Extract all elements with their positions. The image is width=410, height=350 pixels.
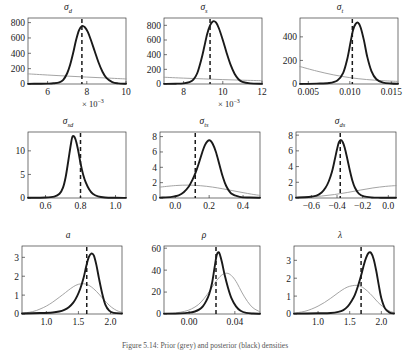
panel-sigma-d-xticklabel: 8 xyxy=(84,87,89,97)
panel-sigma-sd-xticklabel: 0.6 xyxy=(40,201,52,211)
panel-sigma-ds-yticklabel: 4 xyxy=(288,162,293,172)
panel-sigma-ts-plot-frame xyxy=(160,132,260,198)
panel-sigma-ts-xticklabel: 0.4 xyxy=(237,201,249,211)
panel-sigma-s-axis-exponent-power: −3 xyxy=(233,98,239,104)
panel-a-xticklabel: 2.0 xyxy=(105,317,117,327)
panel-sigma-t: σt0.0050.0100.0150200400 xyxy=(272,2,408,112)
panel-sigma-sd: σsd0.60.81.00510 xyxy=(0,116,136,226)
panel-sigma-ds-xticklabel: −0.6 xyxy=(303,201,320,211)
panel-sigma-ts: σts0.00.20.402468 xyxy=(136,116,272,226)
panel-sigma-s: σs810120200400600800× 10−3 xyxy=(136,2,272,112)
panel-sigma-s-plot: 810120200400600800 xyxy=(136,2,272,112)
panel-sigma-sd-posterior-curve xyxy=(28,136,126,198)
panel-sigma-ts-yticklabel: 0 xyxy=(152,193,157,203)
panel-sigma-ds-yticklabel: 0 xyxy=(288,193,293,203)
panel-sigma-ds-xticklabel: 0.0 xyxy=(382,201,394,211)
panel-sigma-sd-xticklabel: 1.0 xyxy=(110,201,122,211)
panel-sigma-ts-yticklabel: 2 xyxy=(152,178,157,188)
panel-sigma-t-xticklabel: 0.015 xyxy=(381,87,403,97)
panel-sigma-s-axis-exponent: × 10−3 xyxy=(218,98,240,109)
panel-lambda-xticklabel: 1.5 xyxy=(344,317,356,327)
panel-sigma-d-xticklabel: 6 xyxy=(45,87,50,97)
panel-sigma-t-plot: 0.0050.0100.0150200400 xyxy=(272,2,408,112)
panel-sigma-s-axis-exponent-base: × 10 xyxy=(218,99,233,109)
panel-a-posterior-curve xyxy=(22,253,122,313)
panel-sigma-d-axis-exponent: × 10−3 xyxy=(82,98,104,109)
panel-sigma-s-yticklabel: 600 xyxy=(147,35,162,45)
panel-sigma-t-yticklabel: 400 xyxy=(283,32,298,42)
panel-sigma-s-plot-frame xyxy=(164,18,262,84)
panel-sigma-d-yticklabel: 800 xyxy=(11,18,26,28)
panel-sigma-d-yticklabel: 200 xyxy=(11,64,26,74)
panel-sigma-d-xticklabel: 10 xyxy=(121,87,131,97)
panel-lambda-plot: 1.01.52.00123 xyxy=(272,230,408,340)
panel-sigma-d-yticklabel: 0 xyxy=(20,79,25,89)
panel-sigma-ds-yticklabel: 2 xyxy=(288,178,293,188)
panel-sigma-ds-posterior-curve xyxy=(296,140,396,198)
panel-sigma-s-yticklabel: 0 xyxy=(156,79,161,89)
panel-sigma-ds: σds−0.6−0.4−0.20.002468 xyxy=(272,116,408,226)
panel-lambda-xticklabel: 2.0 xyxy=(375,317,387,327)
panel-sigma-t-xticklabel: 0.005 xyxy=(298,87,320,97)
panel-rho: ρ0.000.040204060 xyxy=(136,230,272,340)
panel-sigma-s-posterior-curve xyxy=(164,21,262,84)
panel-sigma-sd-yticklabel: 0 xyxy=(20,193,25,203)
panel-a-yticklabel: 2 xyxy=(14,272,19,282)
panel-lambda-yticklabel: 3 xyxy=(286,256,291,266)
panel-sigma-ts-xticklabel: 0.0 xyxy=(169,201,181,211)
panel-a-yticklabel: 3 xyxy=(14,253,19,263)
panel-sigma-ds-prior-curve xyxy=(296,186,396,198)
panel-sigma-sd-yticklabel: 10 xyxy=(16,146,26,156)
panel-sigma-t-xticklabel: 0.010 xyxy=(339,87,361,97)
panel-rho-xticklabel: 0.04 xyxy=(227,317,244,327)
panel-sigma-d: σd68100200400600800× 10−3 xyxy=(0,2,136,112)
panel-sigma-s-yticklabel: 400 xyxy=(147,50,162,60)
panel-a-yticklabel: 0 xyxy=(14,309,19,319)
panel-rho-yticklabel: 60 xyxy=(152,244,162,254)
panel-sigma-sd-yticklabel: 5 xyxy=(20,170,25,180)
panel-lambda: λ1.01.52.00123 xyxy=(272,230,408,340)
panel-sigma-t-prior-curve xyxy=(300,67,398,82)
panel-sigma-ts-yticklabel: 4 xyxy=(152,163,157,173)
panel-sigma-d-axis-exponent-power: −3 xyxy=(97,98,103,104)
panel-sigma-d-prior-curve xyxy=(28,74,126,79)
panel-sigma-d-yticklabel: 600 xyxy=(11,33,26,43)
panel-sigma-ts-yticklabel: 6 xyxy=(152,147,157,157)
panel-sigma-s-yticklabel: 200 xyxy=(147,65,162,75)
panel-rho-xticklabel: 0.00 xyxy=(181,317,198,327)
panel-sigma-ds-yticklabel: 8 xyxy=(288,131,293,141)
panel-sigma-ds-xticklabel: −0.4 xyxy=(328,201,345,211)
panel-lambda-yticklabel: 1 xyxy=(286,292,291,302)
panel-rho-yticklabel: 20 xyxy=(152,287,162,297)
panel-sigma-ts-yticklabel: 8 xyxy=(152,132,157,142)
panel-lambda-yticklabel: 0 xyxy=(286,309,291,319)
panel-sigma-ts-xticklabel: 0.2 xyxy=(203,201,215,211)
panel-sigma-d-yticklabel: 400 xyxy=(11,49,26,59)
panel-a: a1.01.52.00123 xyxy=(0,230,136,340)
panel-sigma-ds-xticklabel: −0.2 xyxy=(354,201,371,211)
panel-sigma-d-plot-frame xyxy=(28,18,126,84)
panel-sigma-t-yticklabel: 0 xyxy=(292,79,297,89)
panel-sigma-ts-prior-curve xyxy=(160,185,260,195)
panel-a-xticklabel: 1.0 xyxy=(40,317,52,327)
panel-rho-yticklabel: 0 xyxy=(156,309,161,319)
panel-a-yticklabel: 1 xyxy=(14,291,19,301)
panel-sigma-s-prior-curve xyxy=(164,77,262,80)
panel-sigma-ts-posterior-curve xyxy=(160,140,260,197)
panel-sigma-t-posterior-curve xyxy=(300,22,398,83)
panel-sigma-ts-plot: 0.00.20.402468 xyxy=(136,116,272,226)
panel-lambda-xticklabel: 1.0 xyxy=(312,317,324,327)
panel-sigma-ds-yticklabel: 6 xyxy=(288,146,293,156)
panel-sigma-d-plot: 68100200400600800 xyxy=(0,2,136,112)
panel-sigma-sd-plot: 0.60.81.00510 xyxy=(0,116,136,226)
panel-sigma-ds-plot-frame xyxy=(296,132,396,198)
panel-sigma-sd-xticklabel: 0.8 xyxy=(75,201,87,211)
panel-a-plot: 1.01.52.00123 xyxy=(0,230,136,340)
panel-sigma-s-yticklabel: 800 xyxy=(147,21,162,31)
figure-caption: Figure 5.14: Prior (grey) and posterior … xyxy=(0,341,410,350)
panel-lambda-posterior-curve xyxy=(294,252,394,313)
panel-rho-yticklabel: 40 xyxy=(152,266,162,276)
panel-sigma-ds-plot: −0.6−0.4−0.20.002468 xyxy=(272,116,408,226)
panel-lambda-yticklabel: 2 xyxy=(286,274,291,284)
